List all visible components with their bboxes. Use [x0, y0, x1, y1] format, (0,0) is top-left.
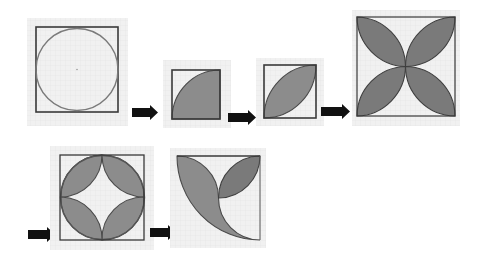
panel-3-single-lens	[256, 58, 324, 126]
panel-1-circle-in-square	[27, 18, 128, 126]
arrow-2-right-arrow-icon	[228, 110, 256, 125]
panel-2-quarter-circle	[163, 60, 231, 128]
center-point	[76, 69, 78, 71]
arrow-1-right-arrow-icon	[132, 105, 158, 120]
panel-4-four-petal-flower	[352, 10, 460, 126]
diagram-canvas	[0, 0, 488, 267]
panel-5-four-lenses-on-circle	[50, 146, 154, 250]
panel-6-crescent-with-lens	[170, 148, 266, 248]
arrow-3-right-arrow-icon	[321, 104, 350, 119]
